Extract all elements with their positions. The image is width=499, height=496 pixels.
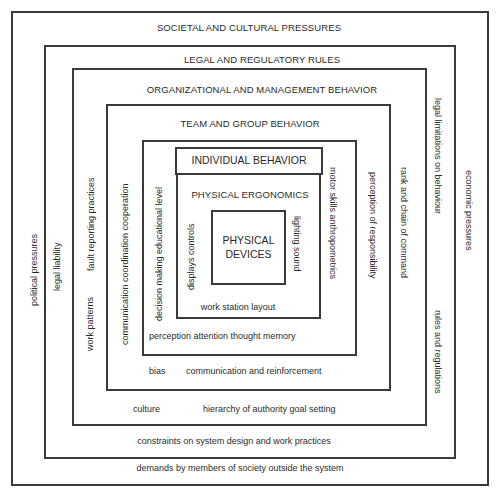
organizational-left-bottom-label: work patterns xyxy=(85,297,95,351)
team-title: TEAM AND GROUP BEHAVIOR xyxy=(180,118,319,129)
societal-title: SOCIETAL AND CULTURAL PRESSURES xyxy=(157,22,341,33)
organizational-bottom-left-label: culture xyxy=(133,404,160,414)
organizational-right-label: rank and chain of command xyxy=(399,167,409,278)
team-bottom-left-label: bias xyxy=(149,366,166,376)
ergonomics-title: PHYSICAL ERGONOMICS xyxy=(191,189,308,200)
ergonomics-right-label: lighting sound xyxy=(292,216,302,272)
ergonomics-bottom-label: work station layout xyxy=(201,302,276,312)
team-right-label: perception of responsibility xyxy=(368,172,378,279)
team-left-label: communication coordination cooperation xyxy=(120,183,130,345)
organizational-title: ORGANIZATIONAL AND MANAGEMENT BEHAVIOR xyxy=(147,84,377,95)
individual-title: INDIVIDUAL BEHAVIOR xyxy=(192,154,307,166)
societal-bottom-label: demands by members of society outside th… xyxy=(136,463,343,473)
individual-left-label: decision making educational level xyxy=(154,187,164,321)
physical-devices-line2: DEVICES xyxy=(211,247,286,261)
societal-right-label: economic pressures xyxy=(464,170,474,251)
legal-title: LEGAL AND REGULATORY RULES xyxy=(184,54,340,65)
ergonomics-left-label: displays controls xyxy=(186,223,196,290)
legal-left-label: legal liability xyxy=(52,242,62,291)
legal-bottom-label: constraints on system design and work pr… xyxy=(137,436,331,446)
physical-devices-label: PHYSICAL DEVICES xyxy=(211,233,286,261)
individual-bottom-label: perception attention thought memory xyxy=(149,331,296,341)
organizational-bottom-right-label: hierarchy of authority goal setting xyxy=(203,404,336,414)
physical-devices-line1: PHYSICAL xyxy=(211,233,286,247)
individual-right-label: motor skills anthropometrics xyxy=(328,167,338,279)
organizational-left-top-label: fault reporting practices xyxy=(86,177,96,271)
societal-left-label: political pressures xyxy=(29,234,39,306)
legal-right-top-label: legal limitations on behaviour xyxy=(433,98,443,214)
legal-right-bottom-label: rules and regulations xyxy=(433,310,443,394)
team-bottom-right-label: communication and reinforcement xyxy=(186,366,322,376)
